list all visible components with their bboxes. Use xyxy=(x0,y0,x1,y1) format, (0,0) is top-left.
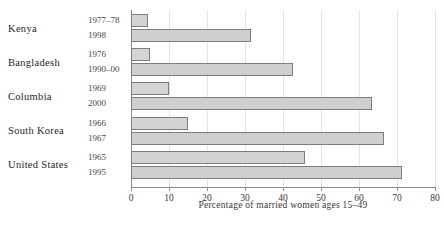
x-tick-mark xyxy=(321,187,322,191)
country-label: United States xyxy=(8,159,68,170)
year-label: 1966 xyxy=(88,118,106,128)
year-label: 1967 xyxy=(88,133,106,143)
bar xyxy=(131,63,293,76)
x-tick-mark xyxy=(207,187,208,191)
year-label: 1995 xyxy=(88,167,106,177)
x-tick-mark xyxy=(169,187,170,191)
x-tick-mark xyxy=(435,187,436,191)
year-label: 1976 xyxy=(88,49,106,59)
x-tick-mark xyxy=(397,187,398,191)
bar xyxy=(131,151,305,164)
bar xyxy=(131,117,188,130)
x-tick-mark xyxy=(359,187,360,191)
horizontal-bar-chart: 01020304050607080 1977–781998Kenya197619… xyxy=(0,0,444,226)
year-label: 2000 xyxy=(88,98,106,108)
country-label: Bangladesh xyxy=(8,57,60,68)
bar xyxy=(131,97,372,110)
country-label: South Korea xyxy=(8,125,64,136)
bar xyxy=(131,132,384,145)
bar xyxy=(131,166,402,179)
x-tick-mark xyxy=(245,187,246,191)
bar xyxy=(131,29,251,42)
bar xyxy=(131,48,150,61)
country-label: Columbia xyxy=(8,91,52,102)
gridline xyxy=(397,10,398,187)
year-label: 1990–00 xyxy=(88,64,120,74)
plot-area: 01020304050607080 xyxy=(131,10,435,187)
year-label: 1965 xyxy=(88,152,106,162)
gridline xyxy=(435,10,436,187)
bar xyxy=(131,82,169,95)
country-label: Kenya xyxy=(8,23,37,34)
x-axis-title: Percentage of married women ages 15–49 xyxy=(131,200,435,210)
bar xyxy=(131,14,148,27)
x-tick-mark xyxy=(283,187,284,191)
x-tick-mark xyxy=(131,187,132,191)
year-label: 1969 xyxy=(88,83,106,93)
year-label: 1977–78 xyxy=(88,15,120,25)
year-label: 1998 xyxy=(88,30,106,40)
